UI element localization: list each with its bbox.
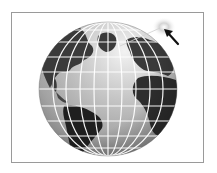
globe-scene — [0, 0, 217, 173]
light-glow-icon — [152, 17, 176, 37]
globe-icon — [39, 22, 180, 157]
